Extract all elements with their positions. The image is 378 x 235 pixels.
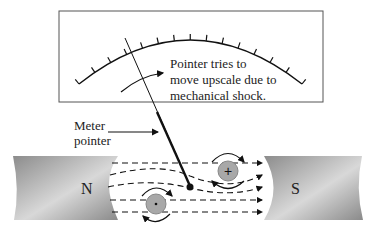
south-magnet	[264, 156, 363, 220]
pointer-pivot	[187, 184, 194, 191]
conductor-upper-flux-arrow-lower-icon	[212, 181, 244, 189]
meter-diagram: Pointer tries to move upscale due to mec…	[0, 0, 378, 235]
conductor-lower-flux-arrow-bottom-icon	[143, 214, 170, 222]
south-pole-label: S	[291, 180, 300, 197]
annotation-line-3: mechanical shock.	[170, 88, 266, 103]
diagram-svg: Pointer tries to move upscale due to mec…	[0, 0, 378, 235]
pointer-label-line-1: Meter	[74, 118, 106, 133]
pointer-label-line-2: pointer	[74, 133, 111, 148]
north-magnet	[13, 156, 118, 220]
north-pole-label: N	[81, 180, 93, 197]
conductor-lower-dot-icon	[155, 203, 158, 206]
scale-tick	[174, 35, 175, 41]
magnetic-field-lines	[108, 163, 262, 212]
conductor-upper-symbol: +	[224, 163, 232, 179]
annotation-line-2: move upscale due to	[170, 72, 277, 87]
annotation-line-1: Pointer tries to	[170, 56, 247, 71]
meter-pointer-shaft	[157, 112, 190, 186]
scale-tick	[206, 35, 207, 41]
